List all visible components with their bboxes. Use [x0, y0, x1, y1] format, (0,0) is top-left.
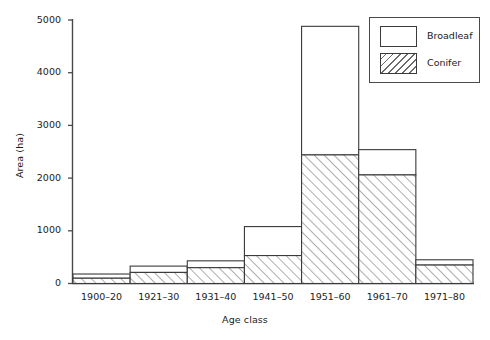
y-axis-title: Area (ha) [14, 121, 25, 191]
x-axis-tick-label: 1951–60 [302, 291, 359, 302]
bar-segment-conifer [187, 268, 244, 284]
legend-label-conifer: Conifer [427, 57, 461, 68]
bar-segment-conifer [244, 256, 301, 284]
x-axis-tick-label: 1961–70 [359, 291, 416, 302]
x-axis-tick-label: 1931–40 [187, 291, 244, 302]
bar-segment-conifer [359, 175, 416, 284]
y-axis-tick-label: 5000 [21, 14, 61, 25]
bar-segment-conifer [73, 278, 130, 283]
x-axis-tick-label: 1921–30 [130, 291, 187, 302]
bar-segment-broadleaf [302, 26, 359, 155]
bar-segment-conifer [416, 265, 473, 283]
bar-segment-broadleaf [187, 261, 244, 268]
y-axis-tick-label: 4000 [21, 66, 61, 77]
bar-segment-broadleaf [130, 266, 187, 272]
legend-swatch-conifer [380, 53, 417, 74]
bar-segment-broadleaf [244, 227, 301, 256]
x-axis-tick-label: 1941–50 [244, 291, 301, 302]
y-axis-tick-label: 0 [21, 277, 61, 288]
y-axis-tick-label: 2000 [21, 172, 61, 183]
legend-swatch-broadleaf [380, 26, 417, 47]
bar-segment-conifer [130, 272, 187, 283]
x-axis-title: Age class [0, 314, 490, 325]
bar-segment-broadleaf [416, 260, 473, 265]
y-axis-tick-label: 3000 [21, 119, 61, 130]
bar-segment-broadleaf [359, 150, 416, 175]
chart-figure: 010002000300040005000 1900–201921–301931… [0, 0, 490, 340]
x-axis-tick-label: 1971–80 [416, 291, 473, 302]
chart-legend: Broadleaf Conifer [369, 17, 480, 83]
x-axis-tick-label: 1900–20 [73, 291, 130, 302]
bar-segment-broadleaf [73, 274, 130, 278]
legend-label-broadleaf: Broadleaf [427, 30, 473, 41]
y-axis-tick-label: 1000 [21, 224, 61, 235]
bar-segment-conifer [302, 155, 359, 284]
